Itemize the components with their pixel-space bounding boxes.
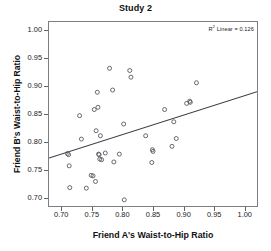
x-tick-label: 0.70 xyxy=(48,210,74,219)
data-point xyxy=(194,81,198,85)
data-point xyxy=(111,88,115,92)
x-tick-label: 1.00 xyxy=(232,210,258,219)
data-point xyxy=(103,151,107,155)
y-tick-label: 0.70 xyxy=(10,193,42,202)
y-tick-label: 1.00 xyxy=(10,25,42,34)
data-point xyxy=(122,198,126,202)
data-point xyxy=(93,179,97,183)
chart-title: Study 2 xyxy=(0,3,271,13)
data-point xyxy=(129,75,133,79)
y-tick-mark xyxy=(44,86,48,87)
y-tick-label: 0.90 xyxy=(10,81,42,90)
scatter-plot-chart: Study 2 Friend B's Waist-to-Hip Ratio R2… xyxy=(0,0,271,251)
data-point xyxy=(117,152,121,156)
data-point xyxy=(128,69,132,73)
y-tick-mark xyxy=(44,58,48,59)
data-point xyxy=(122,122,126,126)
data-point xyxy=(170,144,174,148)
data-point xyxy=(84,186,88,190)
y-tick-label: 0.95 xyxy=(10,53,42,62)
y-tick-mark xyxy=(44,170,48,171)
data-point xyxy=(79,137,83,141)
x-tick-label: 0.95 xyxy=(201,210,227,219)
data-point xyxy=(150,161,154,165)
plot-area: R2 Linear = 0.126 xyxy=(48,21,258,207)
data-point xyxy=(174,137,178,141)
data-point xyxy=(94,129,98,133)
data-point xyxy=(112,160,116,164)
y-tick-mark xyxy=(44,198,48,199)
y-tick-mark xyxy=(44,142,48,143)
data-point xyxy=(67,164,71,168)
data-point xyxy=(96,105,100,109)
r-squared-value: Linear = 0.126 xyxy=(215,26,254,32)
x-tick-label: 0.90 xyxy=(171,210,197,219)
plot-canvas xyxy=(49,22,257,206)
y-tick-mark xyxy=(44,30,48,31)
x-axis-title: Friend A's Waist-to-Hip Ratio xyxy=(48,230,258,240)
x-tick-label: 0.85 xyxy=(140,210,166,219)
y-tick-label: 0.85 xyxy=(10,109,42,118)
data-point xyxy=(108,66,112,70)
x-tick-label: 0.75 xyxy=(79,210,105,219)
x-tick-label: 0.80 xyxy=(109,210,135,219)
r-squared-annotation: R2 Linear = 0.126 xyxy=(208,24,254,32)
data-point xyxy=(95,90,99,94)
data-point xyxy=(98,134,102,138)
data-point xyxy=(68,186,72,190)
data-point xyxy=(172,120,176,124)
y-tick-mark xyxy=(44,114,48,115)
y-tick-label: 0.75 xyxy=(10,165,42,174)
data-point xyxy=(78,114,82,118)
data-point xyxy=(144,134,148,138)
y-tick-label: 0.80 xyxy=(10,137,42,146)
data-point xyxy=(163,108,167,112)
